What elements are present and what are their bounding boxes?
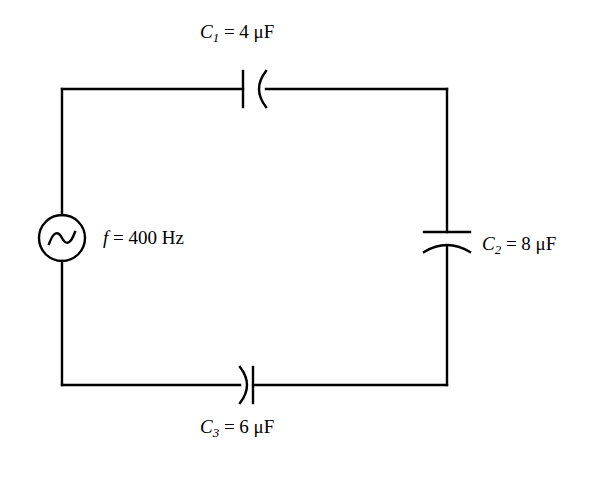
capacitor-c2-label: C2 = 8 μF — [482, 234, 556, 257]
frequency-equals: = — [113, 227, 124, 248]
capacitor-c3-symbol: C — [200, 416, 213, 437]
capacitor-c3-subscript: 3 — [213, 425, 219, 440]
ac-source-sine-wave-icon — [49, 232, 75, 244]
capacitor-c2-subscript: 2 — [495, 242, 501, 257]
capacitor-c1-symbol: C — [200, 21, 213, 42]
capacitor-c1-subscript: 1 — [213, 30, 219, 45]
capacitor-c1-label: C1 = 4 μF — [200, 22, 274, 45]
frequency-unit: Hz — [162, 227, 184, 248]
capacitor-c1-equals: = — [224, 21, 235, 42]
ac-source-frequency-label: f = 400 Hz — [103, 228, 184, 247]
capacitor-c2-unit: μF — [536, 233, 557, 254]
capacitor-c3-equals: = — [224, 416, 235, 437]
capacitor-c3-value: 6 — [239, 416, 249, 437]
frequency-value: 400 — [129, 227, 158, 248]
capacitor-c3-unit: μF — [254, 416, 275, 437]
capacitor-c2-symbol: C — [482, 233, 495, 254]
capacitor-c2-equals: = — [506, 233, 517, 254]
circuit-diagram-canvas: C1 = 4 μF C2 = 8 μF C3 = 6 μF f = 400 Hz — [0, 0, 606, 479]
capacitor-c2-value: 8 — [521, 233, 531, 254]
capacitor-c1-unit: μF — [254, 21, 275, 42]
frequency-symbol: f — [103, 227, 108, 248]
capacitor-c1-value: 4 — [239, 21, 249, 42]
capacitor-c3-label: C3 = 6 μF — [200, 417, 274, 440]
